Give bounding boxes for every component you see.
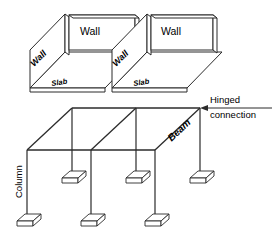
footing-back-2 bbox=[126, 171, 150, 183]
label-wall-back-left: Wall bbox=[80, 26, 100, 37]
label-hinged-line2: connection bbox=[210, 110, 256, 120]
label-wall-back-right: Wall bbox=[161, 26, 181, 37]
label-hinged-line1: Hinged bbox=[210, 95, 240, 105]
label-column: Column bbox=[14, 165, 24, 198]
footing-back-3 bbox=[190, 171, 214, 183]
footing-front-3 bbox=[145, 214, 169, 226]
footing-front-2 bbox=[81, 214, 105, 226]
structural-diagram-root: Wall Wall Wall Wall Slab Slab Hinged con… bbox=[0, 0, 275, 235]
footing-back-1 bbox=[62, 171, 86, 183]
footing-front-1 bbox=[17, 214, 41, 226]
